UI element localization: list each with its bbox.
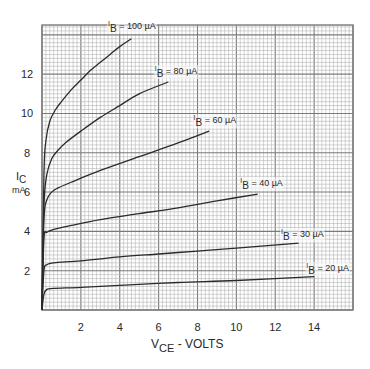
y-axis-label: IC mA — [12, 170, 26, 195]
y-axis-label-main: IC — [16, 170, 26, 185]
x-axis-ticks: 2468101214 — [78, 321, 320, 333]
y-tick-label: 12 — [21, 68, 33, 80]
y-axis-ticks: 24681012 — [21, 68, 33, 277]
x-tick-label: 8 — [194, 321, 200, 333]
x-axis-label: VCE - VOLTS — [151, 337, 223, 354]
x-tick-label: 14 — [308, 321, 320, 333]
curve-ib-60 — [42, 131, 209, 310]
x-tick-label: 2 — [78, 321, 84, 333]
y-axis-label-unit: mA — [12, 185, 26, 195]
curve-ib-100 — [42, 39, 131, 310]
y-tick-label: 8 — [24, 147, 30, 159]
x-tick-label: 10 — [230, 321, 242, 333]
x-tick-label: 12 — [269, 321, 281, 333]
y-tick-label: 4 — [24, 225, 30, 237]
y-tick-label: 2 — [24, 265, 30, 277]
y-tick-label: 10 — [21, 107, 33, 119]
x-tick-label: 6 — [156, 321, 162, 333]
transistor-characteristic-chart: IB = 100 µAIB = 80 µAIB = 60 µAIB = 40 µ… — [0, 0, 370, 369]
x-tick-label: 4 — [117, 321, 123, 333]
x-axis-label-text: VCE - VOLTS — [151, 337, 223, 354]
